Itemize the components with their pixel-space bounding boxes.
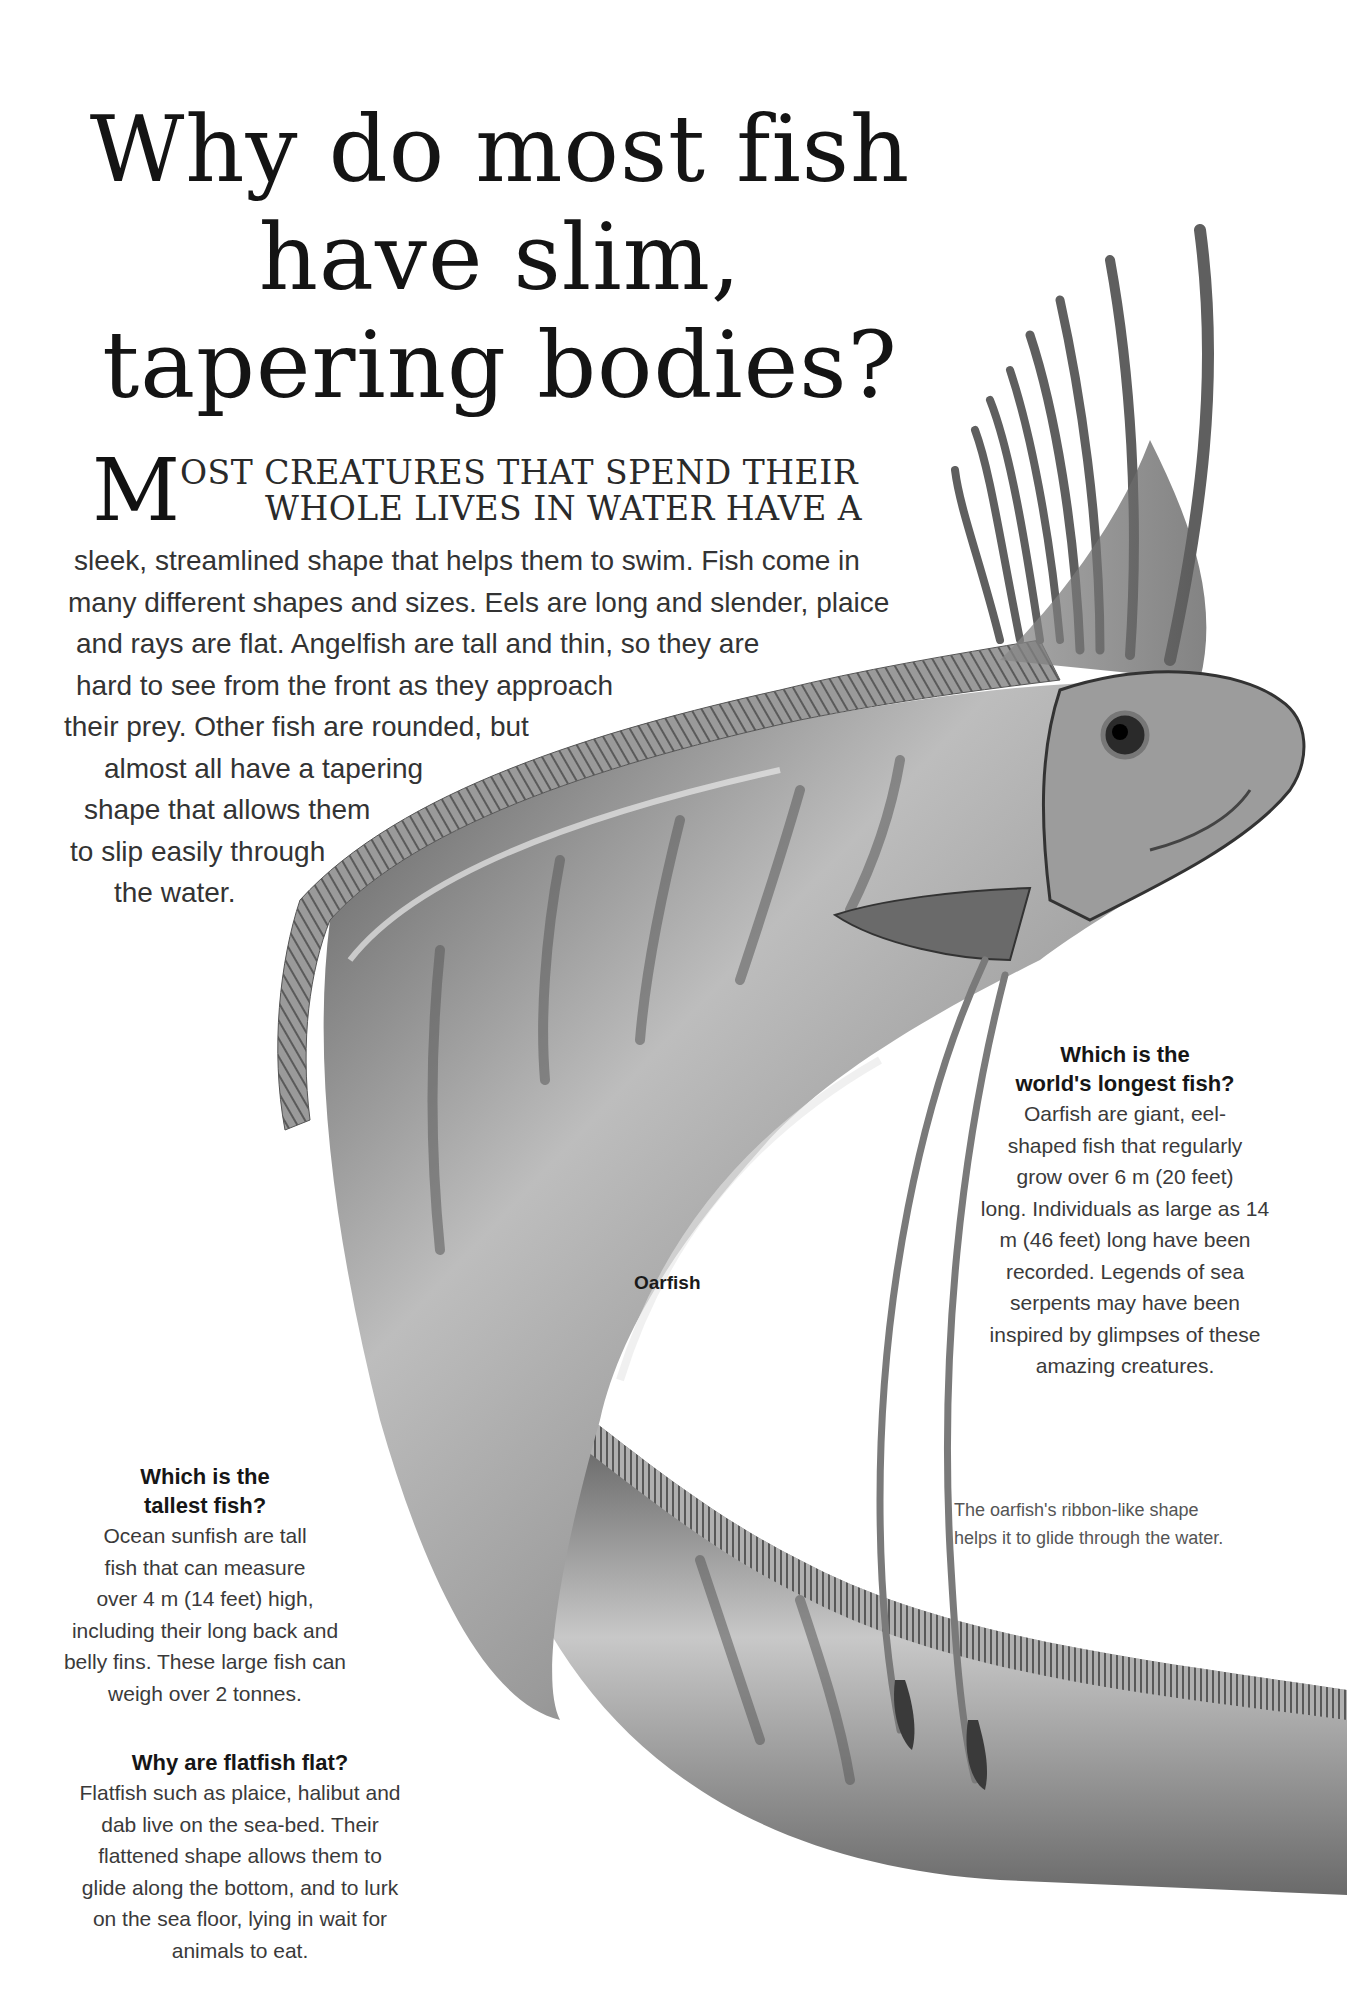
body-line: Flatfish such as plaice, halibut and [60, 1777, 420, 1809]
illustration-caption: The oarfish's ribbon-like shape helps it… [954, 1496, 1223, 1552]
heading-line: world's longest fish? [960, 1069, 1290, 1098]
illustration-label: Oarfish [634, 1272, 701, 1294]
oarfish-head [1043, 672, 1304, 920]
body-line: serpents may have been [960, 1287, 1290, 1319]
body-line: grow over 6 m (20 feet) [960, 1161, 1290, 1193]
body-line: flattened shape allows them to [60, 1840, 420, 1872]
book-page: Why do most fish have slim, tapering bod… [0, 0, 1347, 2010]
body-line: over 4 m (14 feet) high, [60, 1583, 350, 1615]
body-line: amazing creatures. [960, 1350, 1290, 1382]
body-line: including their long back and [60, 1615, 350, 1647]
body-line: weigh over 2 tonnes. [60, 1678, 350, 1710]
intro-paragraph: sleek, streamlined shape that helps them… [62, 540, 889, 914]
title-line: Why do most fish [60, 96, 940, 204]
drop-cap: M [92, 447, 180, 533]
body-line: m (46 feet) long have been [960, 1224, 1290, 1256]
body-line: belly fins. These large fish can [60, 1646, 350, 1678]
intro-line: their prey. Other fish are rounded, but [62, 706, 889, 748]
sidebar-heading: Which is the world's longest fish? [960, 1040, 1290, 1098]
intro-line: shape that allows them [62, 789, 889, 831]
sidebar-flatfish: Why are flatfish flat? Flatfish such as … [60, 1748, 420, 1966]
body-line: shaped fish that regularly [960, 1130, 1290, 1162]
body-line: fish that can measure [60, 1552, 350, 1584]
sidebar-heading: Which is the tallest fish? [60, 1462, 350, 1520]
body-line: inspired by glimpses of these [960, 1319, 1290, 1351]
sidebar-body: Ocean sunfish are tall fish that can mea… [60, 1520, 350, 1709]
sidebar-heading: Why are flatfish flat? [60, 1748, 420, 1777]
intro-line: to slip easily through [62, 831, 889, 873]
body-line: recorded. Legends of sea [960, 1256, 1290, 1288]
body-line: Oarfish are giant, eel- [960, 1098, 1290, 1130]
body-line: long. Individuals as large as 14 [960, 1193, 1290, 1225]
body-line: Ocean sunfish are tall [60, 1520, 350, 1552]
lead-caps-line: OST CREATURES THAT SPEND THEIR [70, 455, 970, 491]
intro-lead: M OST CREATURES THAT SPEND THEIR WHOLE L… [70, 455, 970, 527]
heading-line: Which is the [960, 1040, 1290, 1069]
page-title: Why do most fish have slim, tapering bod… [60, 96, 940, 420]
intro-line: hard to see from the front as they appro… [62, 665, 889, 707]
intro-line: sleek, streamlined shape that helps them… [62, 540, 889, 582]
intro-line: and rays are flat. Angelfish are tall an… [62, 623, 889, 665]
intro-line: the water. [62, 872, 889, 914]
sidebar-body: Oarfish are giant, eel- shaped fish that… [960, 1098, 1290, 1382]
caption-line: The oarfish's ribbon-like shape [954, 1496, 1223, 1524]
lead-caps-line: WHOLE LIVES IN WATER HAVE A [70, 491, 970, 527]
intro-line: many different shapes and sizes. Eels ar… [62, 582, 889, 624]
sidebar-longest-fish: Which is the world's longest fish? Oarfi… [960, 1040, 1290, 1382]
intro-line: almost all have a tapering [62, 748, 889, 790]
body-line: dab live on the sea-bed. Their [60, 1809, 420, 1841]
title-line: tapering bodies? [60, 312, 940, 420]
body-line: on the sea floor, lying in wait for [60, 1903, 420, 1935]
body-line: animals to eat. [60, 1935, 420, 1967]
caption-line: helps it to glide through the water. [954, 1524, 1223, 1552]
sidebar-tallest-fish: Which is the tallest fish? Ocean sunfish… [60, 1462, 350, 1709]
sidebar-body: Flatfish such as plaice, halibut and dab… [60, 1777, 420, 1966]
body-line: glide along the bottom, and to lurk [60, 1872, 420, 1904]
title-line: have slim, [60, 204, 940, 312]
heading-line: tallest fish? [60, 1491, 350, 1520]
heading-line: Which is the [60, 1462, 350, 1491]
heading-line: Why are flatfish flat? [60, 1748, 420, 1777]
